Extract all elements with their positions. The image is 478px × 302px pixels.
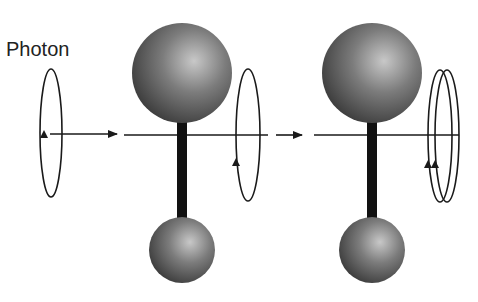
photon-molecule-diagram	[0, 0, 478, 302]
large-atom	[322, 23, 422, 123]
small-atom	[339, 217, 405, 283]
molecule-2	[314, 23, 459, 283]
circulation-arrow-icon	[431, 160, 439, 168]
circulation-arrow-icon	[424, 160, 432, 168]
molecule-1	[124, 23, 232, 283]
circulation-arrow-icon	[40, 130, 48, 138]
small-atom	[149, 217, 215, 283]
circulation-arrow-icon	[232, 158, 240, 166]
large-atom	[132, 23, 232, 123]
photon-loop-2	[424, 70, 459, 202]
photon-loop-incoming	[40, 69, 62, 197]
